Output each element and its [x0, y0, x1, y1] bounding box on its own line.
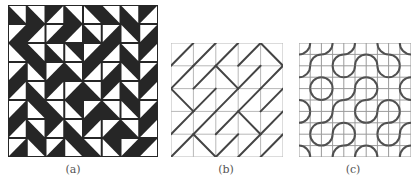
panel-b-label: (b) [218, 163, 234, 176]
panel-b-diagonal-tiling [171, 43, 283, 157]
panel-c-truchet-tiling [299, 43, 411, 157]
panel-c-label: (c) [346, 163, 361, 176]
truchet-tiling-graphic [299, 43, 411, 157]
panel-a-triangle-tiling [8, 5, 158, 157]
panel-a-label: (a) [65, 163, 80, 176]
triangle-tiling-graphic [8, 5, 158, 157]
diagonal-tiling-graphic [171, 43, 283, 157]
